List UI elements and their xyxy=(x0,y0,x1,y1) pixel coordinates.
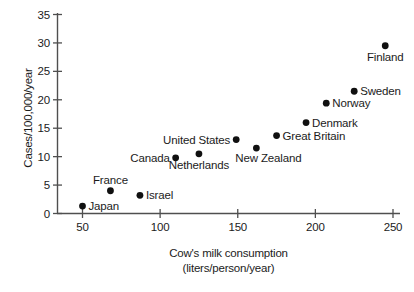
x-tick-label: 150 xyxy=(228,221,247,233)
data-point-label: Great Britain xyxy=(283,130,346,142)
data-point xyxy=(196,150,203,157)
data-point-label: Israel xyxy=(146,189,173,201)
data-point-label: France xyxy=(93,174,128,186)
data-point-label: Denmark xyxy=(312,117,358,129)
data-point xyxy=(382,42,389,49)
data-point xyxy=(107,187,114,194)
x-axis-title: Cow's milk consumption (liters/person/ye… xyxy=(57,246,400,276)
data-point xyxy=(233,136,240,143)
data-point-label: Netherlands xyxy=(169,159,229,171)
y-tick-label: 0 xyxy=(28,208,50,220)
data-point-label: United States xyxy=(163,134,230,146)
data-point xyxy=(303,119,310,126)
x-tick-label: 200 xyxy=(306,221,325,233)
x-tick-label: 50 xyxy=(76,221,88,233)
data-point xyxy=(79,203,86,210)
scatter-plot-figure: 05101520253035 50100150200250 JapanFranc… xyxy=(0,0,414,292)
data-point xyxy=(253,145,260,152)
data-point xyxy=(351,88,358,95)
data-point xyxy=(273,132,280,139)
x-tick-label: 100 xyxy=(151,221,170,233)
y-axis-title: Cases/100,000/year xyxy=(22,43,34,193)
x-axis-title-line2: (liters/person/year) xyxy=(57,261,400,276)
data-point-label: Canada xyxy=(130,152,169,164)
data-point-label: Sweden xyxy=(360,85,401,97)
data-point xyxy=(323,100,330,107)
data-point-label: Japan xyxy=(89,200,120,212)
data-point-label: Finland xyxy=(367,51,404,63)
data-point-label: Norway xyxy=(332,97,370,109)
data-point xyxy=(137,192,144,199)
x-tick-label: 250 xyxy=(384,221,403,233)
x-axis-title-line1: Cow's milk consumption xyxy=(57,246,400,261)
data-point-label: New Zealand xyxy=(235,152,301,164)
y-tick-label: 35 xyxy=(28,9,50,21)
